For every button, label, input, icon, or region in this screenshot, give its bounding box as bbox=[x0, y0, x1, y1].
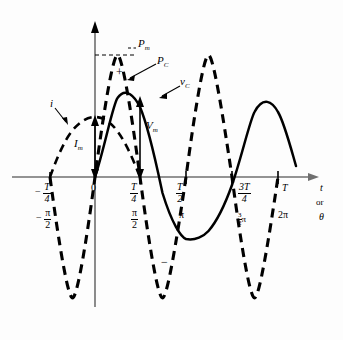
vc-leader-arrowhead bbox=[159, 93, 167, 99]
voltage-curve-v-c bbox=[95, 93, 296, 240]
tick-label-pi: π bbox=[179, 210, 184, 220]
polarity-plus: + bbox=[116, 66, 123, 78]
tick-label-two-pi: 2π bbox=[278, 210, 288, 220]
label-i: i bbox=[50, 98, 53, 109]
tick-label-minus-t-over-4: − T 4 bbox=[35, 182, 51, 204]
y-axis-arrowhead bbox=[91, 21, 99, 33]
i-leader-arrowhead bbox=[62, 117, 68, 125]
tick-label-t-over-4: T 4 bbox=[130, 182, 138, 204]
label-v-m: Vm bbox=[146, 120, 158, 134]
tick-label-zero: 0 bbox=[91, 183, 96, 193]
im-arrow-down bbox=[91, 169, 99, 180]
tick-label-pi-over-2: π 2 bbox=[131, 208, 138, 230]
tick-label-t-over-2: T 2 bbox=[176, 182, 184, 204]
label-p-c: PC bbox=[157, 55, 168, 69]
waveform-figure: Pm PC vC i Im Vm + − − T 4 − π 2 0 T 4 bbox=[0, 0, 343, 340]
tick-label-three-pi-over-2: 3 2 π bbox=[238, 212, 246, 227]
pc-leader-arrowhead bbox=[127, 75, 135, 81]
label-v-c: vC bbox=[180, 76, 190, 90]
x-axis-arrowhead bbox=[308, 173, 319, 181]
polarity-minus: − bbox=[161, 256, 168, 268]
vm-arrow-down bbox=[136, 169, 144, 180]
label-p-m: Pm bbox=[138, 38, 150, 52]
label-i-m: Im bbox=[74, 138, 83, 152]
tick-label-t-full: T bbox=[282, 183, 288, 193]
waveform-plot bbox=[0, 0, 343, 340]
x-axis-caption-t: t bbox=[320, 183, 323, 193]
x-axis-caption-or: or bbox=[316, 198, 324, 207]
tick-label-three-t-over-4: 3T 4 bbox=[238, 182, 251, 204]
tick-label-minus-pi-over-2: − π 2 bbox=[36, 208, 51, 230]
x-axis-caption-theta: θ bbox=[319, 212, 324, 222]
